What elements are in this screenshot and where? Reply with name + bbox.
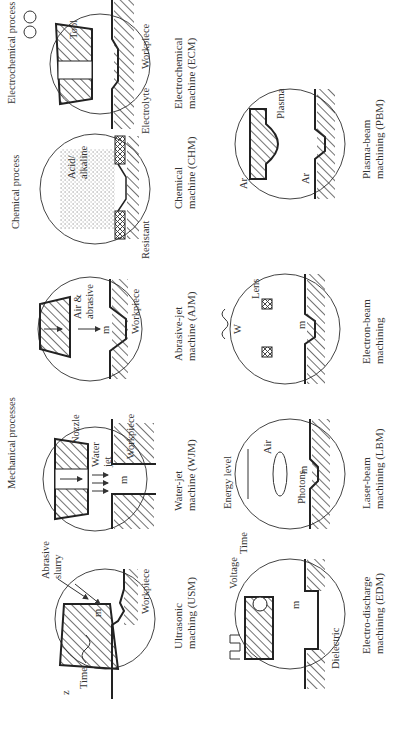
- group-label-mechanical: Mechanical processes: [6, 397, 18, 489]
- group-label-electrochemical: Electrochemical process: [6, 2, 18, 104]
- caption-edm: Electro-dischargemachining (EDM): [360, 573, 386, 654]
- label-edm-time: Time: [238, 532, 250, 554]
- label-voltage: Voltage: [228, 557, 240, 589]
- label-usm-workpiece: Workpiece: [140, 569, 152, 614]
- label-electrolyte: Electrolyte: [140, 88, 152, 134]
- label-lbm-m: m: [298, 466, 310, 474]
- label-acid-alkaline: Acid/alkaline: [66, 146, 90, 179]
- label-ar-top: Ar: [238, 178, 250, 189]
- label-resistant: Resistant: [140, 221, 152, 260]
- machining-processes-figure: Mechanical processes Chemical process El…: [0, 0, 408, 729]
- figure-drawing: [0, 0, 408, 729]
- pbm-diagram: [235, 89, 345, 199]
- chm-diagram: [40, 134, 150, 244]
- label-usm-m: m: [92, 609, 104, 617]
- label-ajm-m: m: [100, 326, 112, 334]
- label-ecm-workpiece: Workpiece: [140, 24, 152, 69]
- edm-diagram: [230, 559, 345, 689]
- label-ar-bottom: Ar: [300, 173, 312, 184]
- label-tool: Tool: [68, 20, 80, 39]
- caption-chm: Chemicalmachine (CHM): [172, 137, 198, 209]
- label-usm-time: Time: [78, 667, 90, 689]
- label-plasma: Plasma: [275, 89, 287, 119]
- label-dielectric: Dielectric: [330, 628, 342, 669]
- wjm-diagram: [43, 419, 156, 531]
- group-label-chemical: Chemical process: [10, 155, 22, 229]
- label-w: W: [232, 324, 244, 334]
- caption-ebm: Electron-beammachining: [360, 299, 386, 364]
- label-water-jet: Waterjet: [90, 442, 114, 467]
- label-ebm-m: m: [296, 321, 308, 329]
- caption-lbm: Laser-beammachining (LBM): [360, 429, 386, 509]
- group-label-energy-level: Energy level: [222, 456, 234, 509]
- label-wjm-workpiece: Workpiece: [125, 414, 137, 459]
- label-ajm-workpiece: Workpiece: [130, 289, 142, 334]
- caption-wjm: Water-jetmachine (WJM): [172, 439, 198, 511]
- label-lens: Lens: [250, 279, 262, 299]
- ecm-diagram: [24, 0, 150, 129]
- caption-pbm: Plasma-beammachining (PBM): [360, 99, 386, 179]
- caption-ecm: Electrochemicalmachine (ECM): [172, 38, 198, 109]
- label-wjm-m: m: [118, 476, 130, 484]
- label-air-abrasive: Air &abrasive: [72, 284, 96, 319]
- label-photons: Photons: [296, 470, 308, 504]
- caption-usm: Ultrasonicmaching (USM): [172, 577, 198, 649]
- label-usm-z: z: [60, 690, 72, 695]
- label-nozzle: Nozzle: [70, 414, 82, 444]
- lbm-diagram: [235, 419, 345, 529]
- label-air: Air: [262, 440, 274, 454]
- label-abrasive-slurry: Abrasiveslurry: [40, 541, 64, 579]
- label-edm-m: m: [290, 601, 302, 609]
- caption-ajm: Abrasive-jetmachine (AJM): [172, 292, 198, 361]
